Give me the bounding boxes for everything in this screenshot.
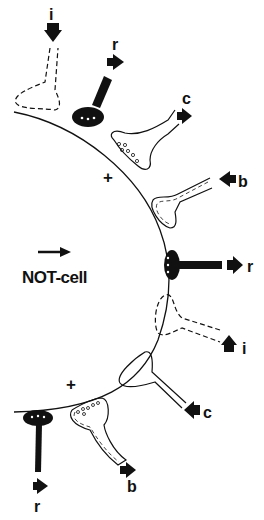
terminal-b-bottom: b +: [66, 375, 137, 495]
svg-text:+: +: [66, 375, 76, 394]
terminal-i-lower: i: [155, 295, 246, 357]
not-cell-diagram: i r c + b r i: [0, 0, 264, 520]
arrow-up-icon: [221, 335, 237, 352]
arrow-right-icon: [33, 478, 48, 494]
terminal-r-mid: r: [164, 250, 253, 280]
arrow-left-icon: [219, 171, 236, 187]
svg-text:i: i: [242, 340, 246, 357]
terminal-c-top: c +: [103, 90, 192, 187]
svg-text:c: c: [182, 90, 191, 107]
terminal-r-top: r: [72, 36, 124, 127]
arrow-right-icon: [177, 108, 192, 124]
arrow-right-icon: [120, 462, 136, 478]
arrow-left-icon: [184, 401, 200, 419]
cell-label: NOT-cell: [22, 268, 87, 288]
terminal-c-lower: c: [119, 352, 212, 421]
arrow-down-icon: [44, 23, 62, 42]
terminal-i-top: i: [15, 6, 62, 110]
svg-text:r: r: [34, 498, 40, 515]
svg-text:i: i: [49, 6, 53, 23]
svg-text:b: b: [127, 478, 137, 495]
terminal-b-upper: b: [152, 171, 248, 228]
arrow-right-icon: [107, 54, 124, 70]
svg-text:r: r: [112, 36, 118, 53]
svg-text:b: b: [238, 173, 248, 190]
direction-arrow-icon: [38, 247, 71, 257]
terminal-r-bottom: r: [23, 410, 53, 515]
cell-membrane: [14, 112, 169, 412]
svg-text:+: +: [103, 168, 113, 187]
svg-text:c: c: [203, 404, 212, 421]
svg-text:r: r: [247, 258, 253, 275]
arrow-right-icon: [227, 256, 243, 274]
